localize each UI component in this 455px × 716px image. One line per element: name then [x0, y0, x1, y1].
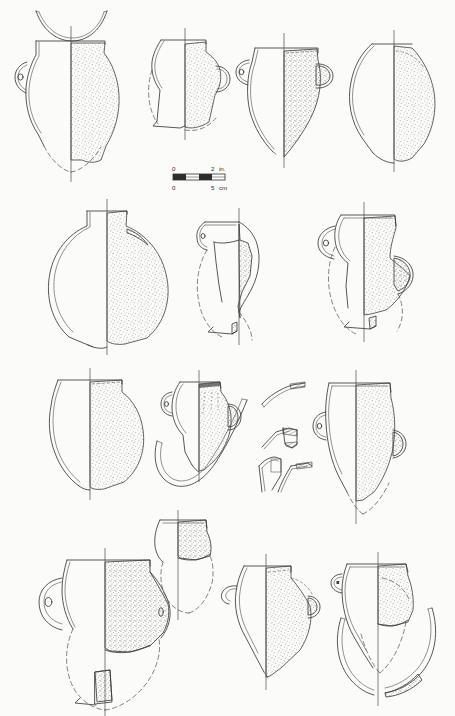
scale-metric-unit: cm: [219, 184, 227, 191]
scale-imperial-unit: in.: [219, 165, 226, 172]
plate-drawing: .o { fill:none; stroke:#3a3a3a; stroke-w…: [0, 0, 455, 716]
scale-metric-end: 5: [211, 184, 215, 191]
scale-imperial-start: 0: [172, 165, 176, 172]
pottery-plate: .o { fill:none; stroke:#3a3a3a; stroke-w…: [0, 0, 455, 716]
scale-imperial-end: 2: [211, 165, 215, 172]
scale-metric-start: 0: [172, 184, 176, 191]
